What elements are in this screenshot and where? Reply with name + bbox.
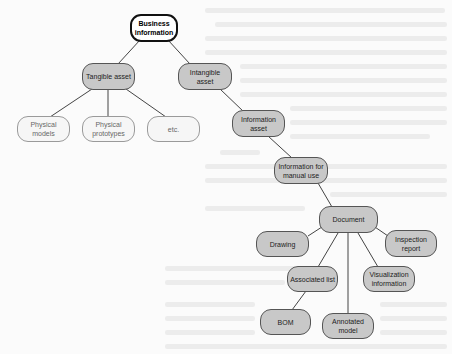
node-visualization-information: Visualization information (363, 266, 415, 292)
node-information-asset: Information asset (232, 110, 285, 137)
node-etc: etc. (147, 116, 200, 142)
node-associated-list: Associated list (287, 266, 338, 292)
node-intangible-asset: Intangible asset (178, 63, 232, 90)
node-business-information: Business information (130, 14, 178, 42)
node-physical-prototypes: Physical prototypes (82, 116, 135, 142)
node-inspection-report: Inspection report (385, 230, 437, 257)
node-physical-models: Physical models (17, 116, 70, 142)
node-drawing: Drawing (256, 231, 309, 257)
node-bom: BOM (260, 309, 311, 335)
node-annotated-model: Annotated model (322, 313, 374, 339)
node-document: Document (319, 206, 378, 233)
node-information-for-manual-use: Information for manual use (274, 157, 328, 184)
connector-lines (0, 0, 452, 354)
node-tangible-asset: Tangible asset (82, 63, 135, 90)
